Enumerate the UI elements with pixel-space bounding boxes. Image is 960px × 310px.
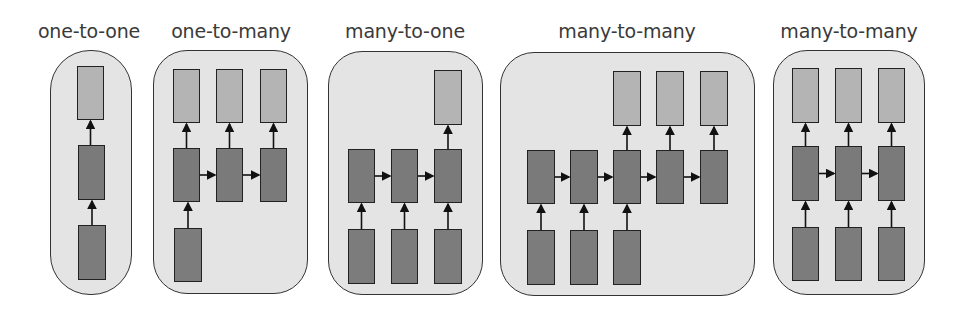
hidden-state-box [78,145,105,200]
output-box [173,69,200,123]
input-box [174,228,202,282]
panel-title: one-to-many [171,20,291,42]
output-box [77,66,104,120]
hidden-state-box [391,149,418,203]
input-box [391,229,418,284]
hidden-state-box [792,146,819,201]
input-box [434,229,462,284]
input-box [527,230,555,285]
hidden-state-box [570,150,598,204]
output-box [216,69,243,123]
hidden-state-box [216,148,243,202]
output-box [656,71,684,126]
output-box [835,68,862,123]
hidden-state-box [527,150,555,204]
output-box [878,68,905,123]
hidden-state-box [434,149,462,203]
panel-title: many-to-many [780,20,917,42]
hidden-state-box [700,150,728,204]
output-box [613,71,641,126]
input-box [348,229,375,284]
input-box [613,230,641,285]
output-box [792,68,819,123]
input-box [878,227,905,281]
output-box [260,69,287,123]
input-box [835,227,862,281]
hidden-state-box [173,148,200,202]
output-box [434,70,462,125]
hidden-state-box [348,149,375,203]
hidden-state-box [878,146,905,201]
input-box [792,227,819,281]
output-box [700,71,728,126]
panel-title: one-to-one [38,20,140,42]
panel-title: many-to-many [558,20,695,42]
hidden-state-box [260,148,287,202]
input-box [570,230,598,285]
hidden-state-box [613,150,641,204]
input-box [78,225,106,280]
panel-title: many-to-one [345,20,465,42]
hidden-state-box [656,150,684,204]
hidden-state-box [835,146,862,201]
